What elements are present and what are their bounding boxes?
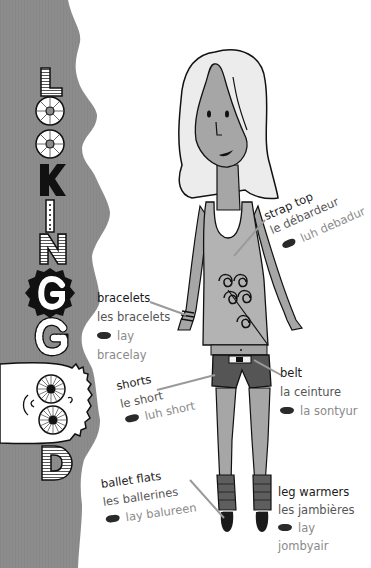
- phonetic-line1: lay: [117, 329, 134, 343]
- lips-icon: [105, 514, 120, 523]
- label-belt: belt la ceinture la sontyur: [280, 365, 358, 419]
- english-word: bracelets: [97, 290, 170, 306]
- vocabulary-page: strap top le débardeur luh debadur brace…: [0, 0, 371, 568]
- english-word: belt: [280, 365, 358, 381]
- lips-icon: [280, 407, 294, 414]
- leg-warmers-drawing-right: [253, 475, 271, 510]
- ballet-flats-drawing-right: [256, 512, 269, 532]
- phonetic-line1: lay: [298, 521, 315, 535]
- lips-icon: [125, 413, 140, 423]
- lips-icon: [281, 237, 297, 249]
- leg-warmers-drawing-left: [217, 475, 236, 510]
- girl-illustration: [0, 0, 371, 568]
- english-word: leg warmers: [278, 484, 354, 500]
- phonetic: la sontyur: [300, 404, 358, 418]
- french-word: les bracelets: [97, 309, 170, 325]
- phonetic-line2: jombyair: [278, 538, 354, 554]
- french-word: les jambières: [278, 502, 354, 518]
- lips-icon: [278, 524, 292, 531]
- french-word: la ceinture: [280, 384, 358, 400]
- label-leg-warmers: leg warmers les jambières lay jombyair: [278, 484, 354, 554]
- lips-icon: [97, 332, 111, 339]
- label-bracelets: bracelets les bracelets lay bracelay: [97, 290, 170, 363]
- phonetic-line2: bracelay: [97, 347, 170, 363]
